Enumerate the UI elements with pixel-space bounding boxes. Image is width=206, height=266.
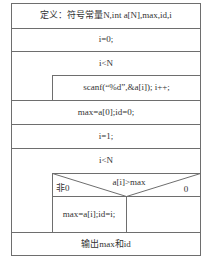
init-max-text: max=a[0];id=0; (11, 107, 201, 118)
loop1-condition-text: i<N (11, 58, 201, 69)
if-condition-text: a[i]>max (104, 177, 154, 188)
definition-text: 定义：符号常量N,int a[N],max,id,i (11, 10, 201, 21)
loop2-condition-text: i<N (11, 155, 201, 166)
loop1-body-text: scanf(“%d”,&a[i]); i++; (52, 82, 201, 93)
true-label: 非0 (56, 183, 76, 194)
init-i-text: i=0; (11, 34, 201, 45)
init-i2-text: i=1; (11, 131, 201, 142)
true-branch-text: max=a[i];id=i; (52, 209, 126, 220)
output-text: 输出max和id (11, 239, 201, 250)
false-label: 0 (180, 184, 192, 195)
